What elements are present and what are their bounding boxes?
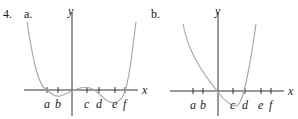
graph-b-tick-d: d: [242, 99, 248, 111]
graph-a-x-label: x: [142, 84, 147, 96]
graph-b-tick-c: c: [230, 99, 235, 111]
graph-b-tick-e: e: [258, 99, 263, 111]
graph-b-x-label: x: [288, 85, 293, 97]
graph-a-tick-f: f: [123, 98, 126, 110]
graph-b-tick-f: f: [269, 99, 272, 111]
graph-b-tick-b: b: [200, 99, 206, 111]
graph-a-tick-a: a: [44, 98, 50, 110]
graph-a-tick-e: e: [112, 98, 117, 110]
graph-b-tick-a: a: [190, 99, 196, 111]
problem-number: 4.: [3, 8, 12, 20]
graph-a-tick-d: d: [96, 98, 102, 110]
graph-a-tick-c: c: [84, 98, 89, 110]
graph-a-curve: [27, 22, 136, 103]
graph-b: [170, 12, 284, 116]
graph-a: [24, 12, 138, 116]
graph-a-label: a.: [24, 8, 32, 20]
graph-b-label: b.: [151, 8, 160, 20]
graph-a-y-label: y: [68, 5, 73, 17]
graph-b-y-label: y: [215, 5, 220, 17]
graph-a-tick-b: b: [55, 98, 61, 110]
